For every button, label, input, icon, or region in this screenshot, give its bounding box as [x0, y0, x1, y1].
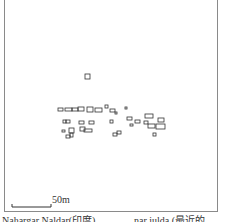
building-outline [89, 121, 94, 124]
building-outlines [58, 74, 165, 138]
building-outline [69, 128, 74, 133]
building-outline [63, 120, 66, 123]
building-outline [105, 105, 108, 108]
building-outline [113, 133, 117, 136]
building-outline [117, 131, 121, 134]
settlement-plan [0, 0, 226, 222]
building-outline [87, 107, 93, 112]
building-outline [135, 120, 140, 123]
building-outline [66, 135, 70, 138]
building-outline [72, 108, 78, 111]
building-outline [110, 120, 113, 123]
building-outline [70, 133, 73, 137]
building-outline [58, 108, 63, 111]
building-outline [145, 114, 153, 118]
building-outline [115, 112, 117, 114]
caption-left: Nahargar Naldar(印度) [2, 212, 95, 222]
caption-right: nar iulda (最近的 [134, 212, 205, 222]
building-outline [65, 108, 72, 111]
building-outline [130, 124, 133, 126]
building-outline [110, 109, 115, 112]
building-outline [156, 124, 165, 129]
building-outline [79, 121, 84, 124]
building-outline [85, 74, 90, 79]
building-outline [153, 133, 156, 136]
building-outline [78, 107, 84, 111]
building-outline [66, 120, 70, 123]
building-outline [62, 130, 65, 132]
building-outline [125, 107, 127, 109]
building-outline [158, 118, 164, 122]
building-outline [95, 108, 102, 112]
building-outline [144, 121, 148, 124]
scale-label: 50m [52, 194, 70, 205]
building-outline [127, 117, 132, 120]
building-outline [148, 124, 155, 128]
